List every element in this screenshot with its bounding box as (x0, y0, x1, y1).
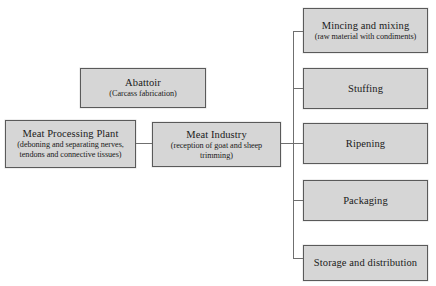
node-mincing-and-mixing-subtitle: (raw material with condiments) (315, 32, 417, 42)
node-abattoir: Abattoir (Carcass fabrication) (80, 68, 206, 108)
node-meat-processing-plant: Meat Processing Plant (deboning and sepa… (5, 120, 136, 168)
node-mincing-and-mixing-title: Mincing and mixing (322, 20, 410, 32)
node-abattoir-subtitle: (Carcass fabrication) (109, 89, 176, 99)
node-storage-and-distribution-title: Storage and distribution (314, 257, 417, 269)
connector-vertical-trunk (293, 31, 294, 259)
node-meat-processing-plant-title: Meat Processing Plant (22, 128, 118, 140)
node-mincing-and-mixing: Mincing and mixing (raw material with co… (303, 8, 428, 53)
node-ripening-title: Ripening (346, 138, 385, 150)
node-packaging: Packaging (303, 180, 428, 221)
node-meat-industry-title: Meat Industry (186, 129, 247, 141)
node-ripening: Ripening (303, 123, 428, 164)
node-storage-and-distribution: Storage and distribution (303, 245, 428, 281)
node-stuffing: Stuffing (303, 68, 428, 109)
node-abattoir-title: Abattoir (125, 77, 161, 89)
node-meat-industry: Meat Industry (reception of goat and she… (152, 122, 281, 167)
node-meat-processing-plant-subtitle: (deboning and separating nerves, tendons… (9, 140, 132, 159)
flowchart-diagram: Abattoir (Carcass fabrication) Meat Proc… (0, 0, 436, 286)
node-stuffing-title: Stuffing (348, 83, 383, 95)
node-meat-industry-subtitle: (reception of goat and sheep trimming) (156, 141, 277, 160)
connector-plant-to-industry (136, 143, 153, 144)
node-packaging-title: Packaging (343, 195, 388, 207)
